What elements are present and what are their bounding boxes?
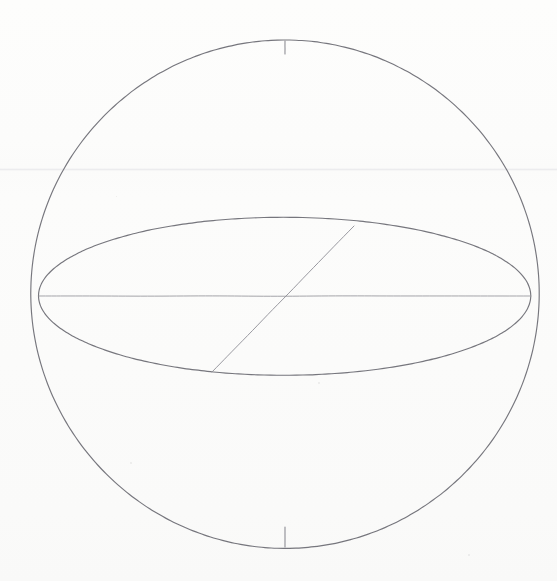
drawing-sheet: Sphere with equatorial ellipse Freehand …: [0, 0, 557, 581]
sphere-equator-diagram: [0, 0, 557, 581]
outer-circle: [31, 40, 539, 548]
diagonal-chord: [212, 226, 354, 372]
ink-layer: [31, 40, 539, 548]
